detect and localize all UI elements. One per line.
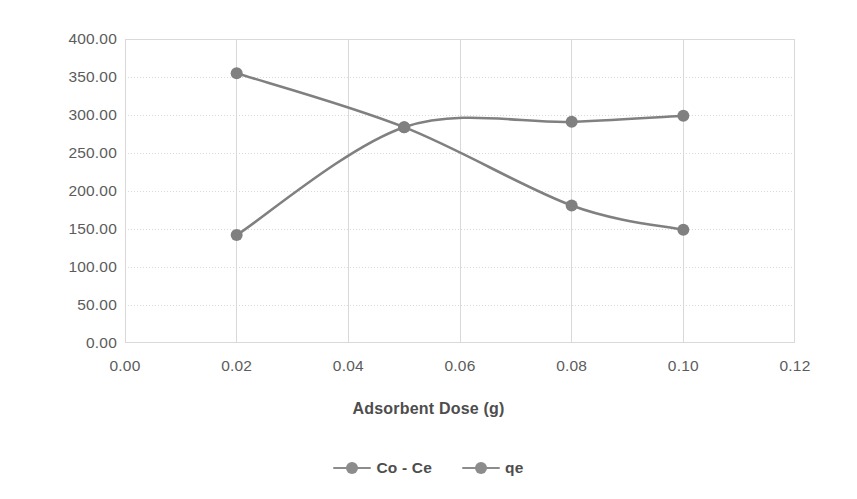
y-axis-tick-label: 150.00 bbox=[37, 221, 117, 237]
y-axis-tick-label: 200.00 bbox=[37, 183, 117, 199]
gridlines-vertical bbox=[125, 39, 795, 343]
y-axis-tick-label: 350.00 bbox=[37, 69, 117, 85]
plot-area bbox=[125, 39, 795, 343]
x-axis-tick-labels: 0.000.020.040.060.080.100.12 bbox=[125, 358, 795, 382]
legend-item-qe[interactable]: qe bbox=[462, 459, 524, 477]
y-axis-tick-label: 100.00 bbox=[37, 259, 117, 275]
y-axis-tick-label: 50.00 bbox=[37, 297, 117, 313]
legend-marker-icon bbox=[333, 461, 371, 475]
x-axis-tick-label: 0.08 bbox=[527, 358, 617, 374]
y-axis-tick-labels: 0.0050.00100.00150.00200.00250.00300.003… bbox=[33, 39, 117, 343]
chart-legend: Co - Ce qe bbox=[0, 459, 857, 477]
x-axis-title: Adsorbent Dose (g) bbox=[0, 400, 857, 418]
plot-svg bbox=[125, 39, 795, 343]
x-axis-tick-label: 0.02 bbox=[192, 358, 282, 374]
legend-label: qe bbox=[505, 459, 524, 477]
y-axis-tick-label: 400.00 bbox=[37, 31, 117, 47]
chart-container: 0.0050.00100.00150.00200.00250.00300.003… bbox=[0, 0, 857, 499]
y-axis-tick-label: 300.00 bbox=[37, 107, 117, 123]
legend-marker-icon bbox=[462, 461, 500, 475]
legend-item-co-ce[interactable]: Co - Ce bbox=[333, 459, 432, 477]
x-axis-tick-label: 0.12 bbox=[750, 358, 840, 374]
y-axis-tick-label: 250.00 bbox=[37, 145, 117, 161]
x-axis-tick-label: 0.04 bbox=[303, 358, 393, 374]
x-axis-tick-label: 0.06 bbox=[415, 358, 505, 374]
x-axis-tick-label: 0.00 bbox=[80, 358, 170, 374]
x-axis-tick-label: 0.10 bbox=[638, 358, 728, 374]
y-axis-tick-label: 0.00 bbox=[37, 335, 117, 351]
legend-label: Co - Ce bbox=[376, 459, 432, 477]
